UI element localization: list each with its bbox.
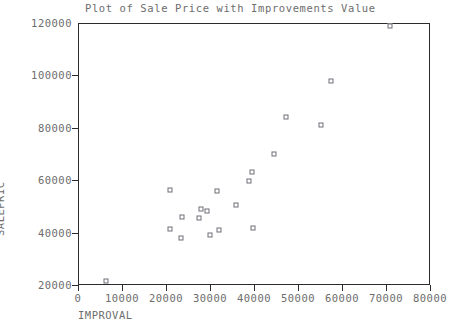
x-axis-title: IMPROVAL	[78, 309, 133, 321]
x-tick-mark	[210, 285, 211, 291]
x-tick-label: 20000	[149, 292, 183, 304]
x-tick-label: 40000	[237, 292, 271, 304]
x-tick-mark	[78, 285, 79, 291]
scatter-plot-figure: Plot of Sale Price with Improvements Val…	[0, 0, 467, 331]
x-tick-mark	[386, 285, 387, 291]
x-tick-label: 60000	[325, 292, 359, 304]
x-tick-mark	[430, 285, 431, 291]
x-tick-mark	[254, 285, 255, 291]
x-tick-label: 70000	[369, 292, 403, 304]
y-axis-title: SALEPRIC	[0, 181, 6, 236]
x-tick-label: 50000	[281, 292, 315, 304]
x-tick-label: 30000	[193, 292, 227, 304]
x-tick-mark	[298, 285, 299, 291]
x-tick-label: 0	[75, 292, 82, 304]
x-tick-label: 80000	[413, 292, 447, 304]
x-tick-mark	[166, 285, 167, 291]
x-tick-label: 10000	[105, 292, 139, 304]
x-axis-ticks: 0100002000030000400005000060000700008000…	[0, 0, 467, 331]
x-tick-mark	[122, 285, 123, 291]
x-tick-mark	[342, 285, 343, 291]
